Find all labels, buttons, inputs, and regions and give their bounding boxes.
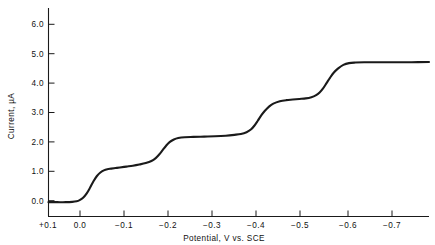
- current-potential-curve: [49, 62, 430, 202]
- x-tick-label-2: −0.1: [115, 221, 133, 230]
- x-tick-label-0: +0.1: [39, 221, 57, 230]
- chart-canvas: 0.0 1.0 2.0 3.0 4.0 5.0 6.0 +0.1 0.0 −0.…: [0, 0, 435, 245]
- x-tick-label-5: −0.4: [247, 221, 265, 230]
- polarogram-figure: 0.0 1.0 2.0 3.0 4.0 5.0 6.0 +0.1 0.0 −0.…: [0, 0, 435, 245]
- y-tick-label-6: 6.0: [31, 20, 44, 29]
- x-tick-label-6: −0.5: [291, 221, 309, 230]
- y-tick-label-2: 2.0: [31, 138, 44, 147]
- y-tick-label-4: 4.0: [31, 79, 44, 88]
- x-tick-label-1: 0.0: [74, 221, 87, 230]
- y-tick-label-3: 3.0: [31, 108, 44, 117]
- x-tick-label-3: −0.2: [159, 221, 177, 230]
- y-axis-ticks: [49, 24, 55, 200]
- y-tick-label-0: 0.0: [31, 197, 44, 206]
- y-tick-label-1: 1.0: [31, 167, 44, 176]
- x-tick-label-4: −0.3: [203, 221, 221, 230]
- y-axis-tick-labels: 0.0 1.0 2.0 3.0 4.0 5.0 6.0: [31, 20, 44, 205]
- x-axis-title: Potential, V vs. SCE: [183, 234, 265, 243]
- y-axis-title: Current, µA: [7, 93, 16, 140]
- x-axis-tick-labels: +0.1 0.0 −0.1 −0.2 −0.3 −0.4 −0.5 −0.6 −…: [39, 221, 401, 230]
- x-axis-ticks: [80, 211, 392, 217]
- x-tick-label-7: −0.6: [339, 221, 357, 230]
- x-tick-label-8: −0.7: [383, 221, 401, 230]
- y-tick-label-5: 5.0: [31, 50, 44, 59]
